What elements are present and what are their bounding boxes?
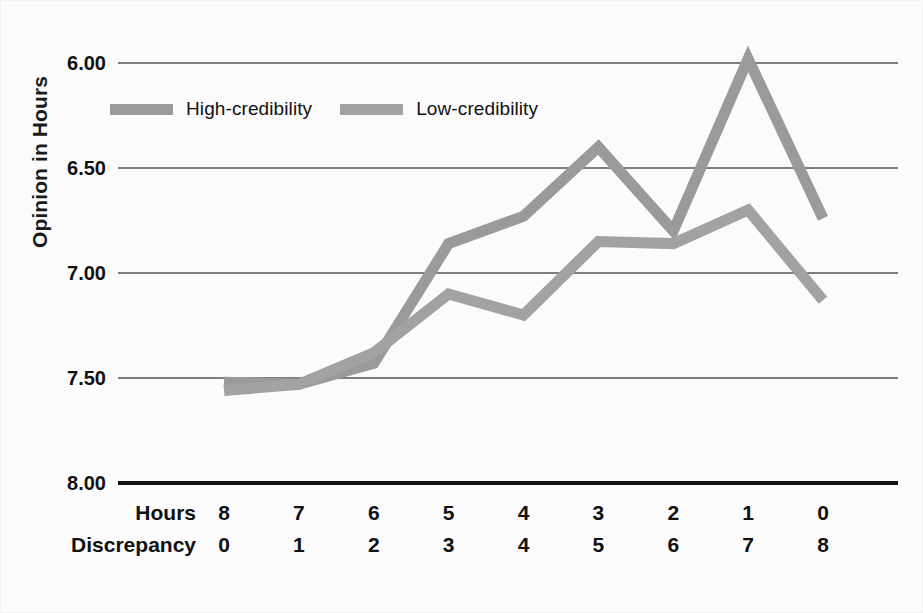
legend-label: High-credibility: [186, 98, 312, 120]
x-axis-row-discrepancy: Discrepancy 012345678: [0, 529, 923, 561]
chart-legend: High-credibility Low-credibility: [110, 98, 538, 120]
x-tick-label-hours: 8: [202, 497, 246, 529]
chart-figure: Opinion in Hours 6.00 6.50 7.00 7.50 8.0…: [0, 0, 923, 613]
legend-swatch-icon: [110, 104, 173, 115]
x-axis-row-hours: Hours 876543210: [0, 497, 923, 529]
x-tick-label-hours: 4: [502, 497, 546, 529]
legend-item-high-credibility: High-credibility: [110, 98, 312, 120]
x-tick-label-hours: 3: [576, 497, 620, 529]
series-line-low-credibility: [224, 210, 823, 391]
x-tick-label-discrepancy: 1: [277, 529, 321, 561]
legend-item-low-credibility: Low-credibility: [340, 98, 538, 120]
x-tick-label-hours: 5: [427, 497, 471, 529]
x-axis-discrepancy-cells: 012345678: [200, 529, 923, 561]
x-tick-label-hours: 1: [726, 497, 770, 529]
x-tick-label-discrepancy: 7: [726, 529, 770, 561]
x-tick-label-discrepancy: 4: [502, 529, 546, 561]
x-tick-label-discrepancy: 6: [651, 529, 695, 561]
x-tick-label-hours: 2: [651, 497, 695, 529]
x-tick-label-discrepancy: 2: [352, 529, 396, 561]
x-axis-row-title: Discrepancy: [0, 533, 200, 557]
x-tick-label-hours: 6: [352, 497, 396, 529]
x-tick-label-hours: 0: [801, 497, 845, 529]
x-axis-label-table: Hours 876543210 Discrepancy 012345678: [0, 497, 923, 561]
x-axis-row-title: Hours: [0, 501, 200, 525]
x-axis-hours-cells: 876543210: [200, 497, 923, 529]
x-tick-label-discrepancy: 3: [427, 529, 471, 561]
legend-swatch-icon: [340, 104, 403, 115]
x-tick-label-hours: 7: [277, 497, 321, 529]
legend-label: Low-credibility: [416, 98, 538, 120]
x-tick-label-discrepancy: 8: [801, 529, 845, 561]
x-tick-label-discrepancy: 5: [576, 529, 620, 561]
x-tick-label-discrepancy: 0: [202, 529, 246, 561]
